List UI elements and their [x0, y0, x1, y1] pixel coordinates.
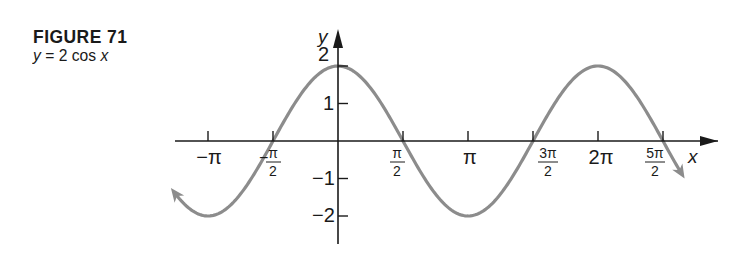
x-tick-label-5pi-half-den: 2 — [651, 163, 659, 179]
x-tick-label-2pi: 2π — [589, 146, 614, 168]
x-tick-label-neg-pi-half-sign: − — [259, 149, 268, 166]
y-tick-label-neg2: −2 — [312, 204, 335, 226]
y-tick-label-neg1: −1 — [312, 167, 335, 189]
x-tick-label-3pi-half-num: 3π — [539, 145, 557, 161]
y-axis-arrow-icon — [333, 29, 343, 48]
x-tick-label-pi-half-num: π — [392, 145, 402, 161]
x-tick-label-pi-half-den: 2 — [393, 163, 401, 179]
x-tick-label-3pi-half-den: 2 — [544, 163, 552, 179]
y-tick-label-2: 2 — [318, 43, 329, 65]
x-tick-label-5pi-half-num: 5π — [646, 145, 664, 161]
x-tick-label-pi: π — [463, 146, 477, 168]
x-tick-label-neg-pi-half-num: π — [268, 145, 278, 161]
x-tick-label-neg-pi-half-den: 2 — [269, 163, 277, 179]
cosine-chart: y x −π − π 2 π 2 π 3π 2 2π 5π 2 2 1 −1 −… — [0, 0, 735, 254]
x-axis-label: x — [687, 146, 699, 167]
x-tick-label-neg-pi: −π — [196, 146, 221, 168]
y-tick-label-1: 1 — [323, 92, 334, 114]
x-axis-arrow-icon — [700, 136, 718, 146]
